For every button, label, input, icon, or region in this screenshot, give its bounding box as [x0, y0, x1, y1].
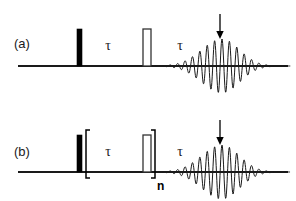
panel-b-tau-2-label: τ: [177, 144, 183, 159]
panel-a-echo-arrow-head: [216, 31, 223, 39]
panel-b-refocusing-pulse: [143, 135, 151, 172]
figure-canvas: (a) τ τ (b) n τ: [0, 0, 296, 201]
panel-a: (a) τ τ: [14, 14, 290, 92]
panel-a-excitation-pulse: [77, 29, 82, 66]
repeat-bracket-left: [86, 130, 90, 178]
panel-b-repeat-bracket: n: [86, 130, 164, 193]
panel-a-tau-2-label: τ: [177, 38, 183, 53]
repeat-count-label: n: [157, 179, 164, 193]
panel-b-echo-arrow-head: [216, 137, 223, 145]
pulse-sequence-figure: (a) τ τ (b) n τ: [0, 0, 296, 201]
panel-b-excitation-pulse: [77, 135, 82, 172]
panel-a-tau-1-label: τ: [105, 38, 111, 53]
panel-a-echo-arrow: [216, 14, 223, 39]
panel-a-label: (a): [14, 36, 30, 51]
panel-a-refocusing-pulse: [143, 29, 151, 66]
panel-b-echo-arrow: [216, 120, 223, 145]
panel-b-label: (b): [14, 144, 30, 159]
panel-b: (b) n τ τ: [14, 120, 290, 199]
panel-b-tau-1-label: τ: [105, 144, 111, 159]
